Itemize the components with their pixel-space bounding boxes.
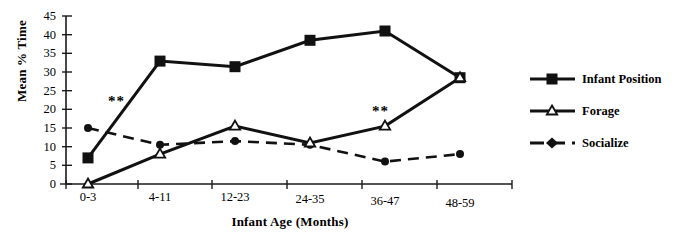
series-line-infant-position bbox=[88, 31, 460, 158]
y-axis-title: Mean % Time bbox=[14, 20, 29, 102]
chart-plot-area bbox=[0, 0, 683, 247]
x-tick-label-36-47: 36-47 bbox=[355, 194, 415, 209]
y-tick-label-0: 0 bbox=[32, 177, 56, 192]
y-tick-label-45: 45 bbox=[32, 9, 56, 24]
x-tick-label-24-35: 24-35 bbox=[280, 192, 340, 207]
y-tick-label-20: 20 bbox=[32, 102, 56, 117]
x-tick-label-4-11: 4-11 bbox=[130, 190, 190, 205]
legend-label-forage: Forage bbox=[582, 104, 619, 119]
x-axis-title: Infant Age (Months) bbox=[231, 214, 348, 229]
y-tick-label-10: 10 bbox=[32, 140, 56, 155]
legend-sample-forage bbox=[530, 106, 575, 115]
y-tick-label-25: 25 bbox=[32, 84, 56, 99]
y-axis-title-wrap: Mean % Time bbox=[12, 0, 30, 126]
y-tick-label-40: 40 bbox=[32, 28, 56, 43]
series-line-socialize bbox=[88, 128, 460, 162]
x-axis-title-wrap: Infant Age (Months) bbox=[100, 212, 480, 230]
x-tick-label-0-3: 0-3 bbox=[58, 190, 118, 205]
legend-sample-socialize bbox=[530, 138, 575, 149]
y-tick-label-5: 5 bbox=[32, 158, 56, 173]
legend-label-socialize: Socialize bbox=[582, 136, 629, 151]
series-line-forage bbox=[88, 78, 460, 184]
series-markers-socialize bbox=[84, 124, 464, 166]
legend-label-infant-position: Infant Position bbox=[582, 72, 662, 87]
x-tick-label-12-23: 12-23 bbox=[205, 190, 265, 205]
y-tick-label-35: 35 bbox=[32, 46, 56, 61]
significance-annotation-0-3: ** bbox=[108, 93, 125, 110]
x-tick-label-48-59: 48-59 bbox=[430, 196, 490, 211]
y-tick-label-15: 15 bbox=[32, 121, 56, 136]
legend-sample-infant-position bbox=[530, 74, 575, 85]
significance-annotation-36-47: ** bbox=[372, 103, 389, 120]
y-tick-label-30: 30 bbox=[32, 65, 56, 80]
chart-container: 0 5 10 15 20 25 30 35 40 45 0-3 4-11 12-… bbox=[0, 0, 683, 247]
